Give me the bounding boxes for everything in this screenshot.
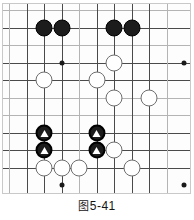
- white-stone-c5r4: [88, 72, 105, 89]
- black-stone-c7r1: [123, 19, 140, 36]
- star-point: [182, 183, 187, 188]
- star-point: [59, 183, 64, 188]
- white-stone-c6r3: [106, 54, 123, 71]
- white-stone-c6r5: [106, 89, 123, 106]
- white-stone-c2r9: [36, 159, 53, 176]
- white-stone-c8r5: [141, 89, 158, 106]
- star-point: [59, 60, 64, 65]
- black-stone-c6r1: [106, 19, 123, 36]
- white-stone-c7r9: [123, 159, 140, 176]
- grid-line-vertical: [9, 4, 10, 193]
- white-stone-c4r9: [71, 159, 88, 176]
- black-marked-stone-c2r8: [36, 142, 53, 159]
- grid-line-vertical: [27, 4, 28, 193]
- figure-container: 图5-41: [0, 0, 194, 220]
- caption-label: 图: [78, 200, 90, 213]
- white-stone-c2r4: [36, 72, 53, 89]
- caption-number: 5-41: [90, 199, 116, 213]
- black-marked-stone-c2r7: [36, 124, 53, 141]
- grid-line-vertical: [167, 4, 168, 193]
- grid-line-vertical: [97, 4, 98, 193]
- figure-caption: 图5-41: [0, 197, 194, 213]
- black-stone-c2r1: [36, 19, 53, 36]
- go-board: [2, 3, 191, 194]
- black-marked-stone-c5r8: [88, 142, 105, 159]
- black-marked-stone-c5r7: [88, 124, 105, 141]
- triangle-marker-icon: [93, 147, 101, 154]
- triangle-marker-icon: [40, 130, 48, 137]
- black-stone-c3r1: [53, 19, 70, 36]
- white-stone-c3r9: [53, 159, 70, 176]
- triangle-marker-icon: [93, 130, 101, 137]
- go-board-grid: [3, 4, 190, 193]
- white-stone-c6r8: [106, 142, 123, 159]
- star-point: [182, 60, 187, 65]
- triangle-marker-icon: [40, 147, 48, 154]
